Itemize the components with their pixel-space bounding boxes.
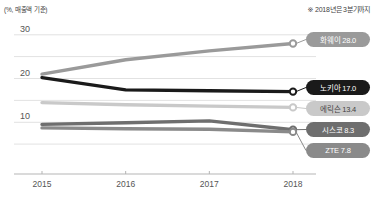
legend-item-label: ZTE 7.8 [325,146,350,155]
legend-item-4[interactable]: 시스코 8.3 [306,122,370,137]
series-end-marker [290,129,296,135]
legend-item-label: 화웨이 28.0 [320,34,356,45]
series-line [42,128,293,132]
y-axis-tick-label: 30 [20,24,30,34]
legend-item-label: 노키아 17.0 [320,82,356,93]
legend-item-label: 에릭슨 13.4 [320,103,356,114]
x-axis-tick-label: 2017 [200,179,219,189]
line-chart: (%, 매출액 기준) ※ 2018년은 3분기까지 102030 201520… [0,0,374,203]
series-line [42,78,293,92]
series-end-marker [290,88,296,94]
legend-item-label: 시스코 8.3 [322,124,354,135]
legend-leader-line [296,132,306,151]
y-axis-tick-label: 20 [20,68,30,78]
y-axis-tick-label: 10 [20,111,30,121]
series-end-marker [290,104,296,110]
x-axis-tick-label: 2016 [116,179,135,189]
legend-item-2[interactable]: 노키아 17.0 [306,80,370,95]
x-axis-tick-label: 2015 [33,179,52,189]
series-end-markers [290,40,296,135]
legend-item-3[interactable]: 에릭슨 13.4 [306,101,370,116]
series-end-marker [290,40,296,46]
y-axis-tick-labels: 102030 [20,24,30,122]
legend-item-5[interactable]: ZTE 7.8 [306,143,370,158]
legend-leader-line [296,88,306,92]
series-line [42,44,293,75]
x-axis-tick-label: 2018 [284,179,303,189]
legend-leader-line [296,40,306,44]
legend-item-1[interactable]: 화웨이 28.0 [306,32,370,47]
series-line [42,103,293,108]
legend-leader-line [296,107,306,108]
